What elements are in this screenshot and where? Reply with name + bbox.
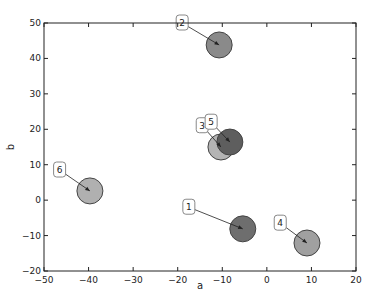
- annotation-label: 1: [186, 202, 192, 212]
- y-tick-label: 50: [30, 18, 42, 28]
- annotation-label: 6: [57, 165, 63, 175]
- y-tick-label: −10: [22, 231, 41, 241]
- x-tick-label: 10: [306, 275, 318, 285]
- y-tick-label: 30: [30, 89, 42, 99]
- y-tick-label: 40: [30, 53, 42, 63]
- annotation-label: 5: [208, 117, 214, 127]
- x-tick-label: −30: [124, 275, 143, 285]
- y-tick-label: −20: [22, 266, 41, 276]
- annotations: 123456: [54, 15, 307, 243]
- y-tick-label: 0: [35, 195, 41, 205]
- annotation-label: 4: [277, 218, 283, 228]
- y-tick-label: 20: [30, 124, 42, 134]
- x-axis-label: a: [197, 280, 203, 291]
- x-tick-label: 0: [264, 275, 270, 285]
- x-tick-label: −20: [168, 275, 187, 285]
- scatter-chart: 123456 −50−40−30−20−1001020 −20−10010203…: [0, 0, 375, 302]
- x-tick-label: −40: [79, 275, 98, 285]
- x-tick-label: −50: [35, 275, 54, 285]
- x-tick-label: −10: [213, 275, 232, 285]
- annotation-label: 3: [199, 121, 205, 131]
- y-tick-label: 10: [30, 160, 42, 170]
- y-axis-label: b: [5, 144, 16, 150]
- x-tick-label: 20: [350, 275, 362, 285]
